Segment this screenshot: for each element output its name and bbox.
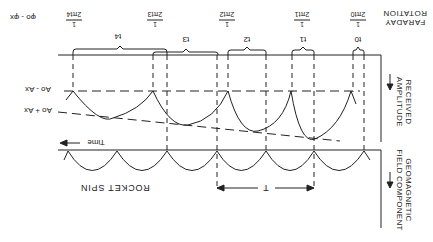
time-label: Time — [87, 138, 105, 147]
fraction-t4-den: 2πt4 — [67, 11, 82, 18]
interval-braces — [73, 46, 364, 55]
faraday-rotation-diagram: FARADAY ROTATION φo - φx 1 2πt0 1 2πt1 1… — [0, 0, 433, 242]
lower-envelope-line — [58, 112, 340, 141]
fraction-t0-den: 2πt0 — [351, 11, 366, 18]
fraction-t1-num: 1 — [300, 21, 304, 28]
fraction-t2-num: 1 — [225, 21, 229, 28]
fraction-t2-den: 2πt2 — [220, 11, 235, 18]
geomagnetic-title-line2: FIELD COMPONENT — [395, 149, 404, 230]
fraction-t3-den: 2πt3 — [148, 11, 163, 18]
time-arrowhead — [60, 140, 67, 146]
upper-level-label: Ao - Ax — [25, 85, 51, 94]
geomagnetic-arrowhead — [387, 182, 393, 188]
interval-label-t0: t0 — [354, 35, 361, 44]
dashed-verticals — [73, 55, 364, 190]
amplitude-arrowhead — [387, 84, 393, 90]
fraction-t4-num: 1 — [72, 21, 76, 28]
received-amplitude-curve — [66, 91, 356, 140]
interval-label-t2: t2 — [243, 35, 250, 44]
geomagnetic-title-line1: GEOMAGNETIC — [404, 158, 413, 221]
faraday-title-line2: ROTATION — [383, 9, 427, 18]
phase-difference-label: φo - φx — [10, 13, 36, 22]
faraday-title-line1: FARADAY — [385, 18, 425, 27]
period-label: T — [263, 183, 269, 193]
rocket-spin-caption: ROCKET SPIN — [80, 183, 150, 193]
interval-label-t4: t4 — [114, 32, 121, 41]
lower-level-label: Ao + Ax — [24, 106, 52, 115]
fraction-t3-num: 1 — [153, 21, 157, 28]
fraction-t0-num: 1 — [356, 21, 360, 28]
amplitude-title-line1: RECEIVED — [404, 80, 413, 125]
period-arrowhead-right — [307, 185, 314, 191]
amplitude-title-line2: AMPLITUDE — [395, 77, 404, 127]
fraction-t1-den: 2πt1 — [295, 11, 310, 18]
period-arrowhead-left — [217, 185, 224, 191]
interval-label-t1: t1 — [299, 35, 306, 44]
interval-label-t3: t3 — [182, 35, 189, 44]
